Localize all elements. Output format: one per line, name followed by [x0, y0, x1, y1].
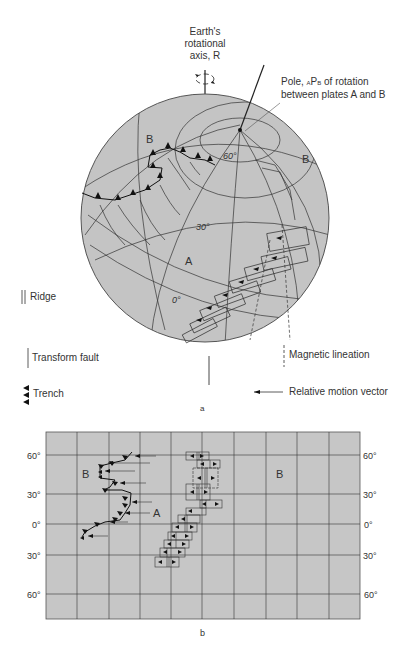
map-right-lat-60n: 60°	[363, 450, 377, 462]
legend-magnetic-lineation: Magnetic lineation	[289, 349, 370, 361]
legend-trench: Trench	[33, 388, 64, 400]
map-right-lat-0: 0°	[364, 519, 373, 531]
map-right-lat-30n: 30°	[363, 489, 377, 501]
map-plate-b-left: B	[82, 468, 89, 480]
legend-ridge: Ridge	[30, 291, 56, 303]
globe-lat-60: 60°	[223, 150, 237, 162]
map-left-lat-30s: 30°	[27, 550, 41, 562]
map-left-lat-30n: 30°	[27, 489, 41, 501]
map-plate-b-right: B	[276, 468, 283, 480]
map-plate-a: A	[153, 507, 160, 519]
map-right-lat-60s: 60°	[364, 589, 378, 601]
map-left-lat-0: 0°	[32, 519, 41, 531]
globe-lat-30: 30°	[196, 221, 210, 233]
globe	[81, 94, 329, 342]
caption-b: b	[200, 627, 205, 639]
legend-relative-motion: Relative motion vector	[289, 386, 388, 398]
trench-legend-icon	[23, 385, 29, 405]
map-left-lat-60s: 60°	[27, 589, 41, 601]
globe-plate-a: A	[185, 255, 192, 267]
pole-label-line2: between plates A and B	[281, 89, 386, 101]
map-left-lat-60n: 60°	[27, 450, 41, 462]
caption-a: a	[200, 403, 204, 415]
map-right-lat-30s: 30°	[363, 550, 377, 562]
globe-plate-b-left: B	[146, 133, 153, 145]
pole-label: Pole, APB of rotation	[281, 76, 369, 89]
legend-transform-fault: Transform fault	[32, 352, 99, 364]
axis-label-line1: Earth's	[170, 26, 240, 38]
globe-lat-0: 0°	[172, 294, 181, 306]
axis-label-line3: axis, R	[170, 50, 240, 62]
axis-label-line2: rotational	[170, 38, 240, 50]
globe-plate-b-right: B	[302, 153, 309, 165]
